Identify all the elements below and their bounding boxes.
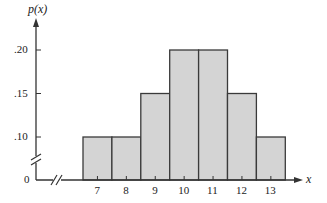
bar-9 bbox=[141, 94, 170, 181]
x-axis-label: x bbox=[306, 172, 311, 187]
y-axis-arrow-icon bbox=[33, 18, 39, 27]
y-tick-label: .15 bbox=[14, 87, 28, 99]
x-tick-label: 11 bbox=[207, 184, 218, 196]
x-tick-label: 10 bbox=[178, 184, 189, 196]
bar-7 bbox=[83, 137, 112, 180]
bar-13 bbox=[256, 137, 285, 180]
x-tick-label: 13 bbox=[265, 184, 276, 196]
x-axis-arrow-icon bbox=[294, 177, 303, 183]
y-tick-label: .10 bbox=[14, 130, 28, 142]
bar-10 bbox=[170, 50, 199, 180]
x-tick-label: 8 bbox=[123, 184, 129, 196]
x-tick-label: 12 bbox=[236, 184, 247, 196]
y-axis-label: p(x) bbox=[28, 2, 47, 17]
probability-histogram bbox=[0, 0, 327, 203]
bars-group bbox=[83, 50, 285, 180]
x-tick-label: 9 bbox=[152, 184, 158, 196]
bar-11 bbox=[199, 50, 228, 180]
bar-8 bbox=[112, 137, 141, 180]
y-zero-label: 0 bbox=[24, 173, 30, 185]
bar-12 bbox=[228, 94, 257, 181]
y-ticks bbox=[36, 50, 41, 137]
y-tick-label: .20 bbox=[14, 43, 28, 55]
x-tick-label: 7 bbox=[94, 184, 100, 196]
